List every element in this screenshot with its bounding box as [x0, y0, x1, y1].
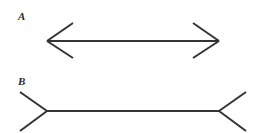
- muller-lyer-figure: A B: [0, 0, 259, 133]
- panel-a-fin-right-lower: [193, 41, 219, 58]
- panel-a-fin-left-lower: [47, 41, 73, 58]
- panel-b-fin-right-lower: [219, 111, 246, 131]
- panel-a: A: [17, 10, 219, 58]
- panel-b-fin-left-upper: [20, 92, 47, 111]
- figure-canvas: A B: [0, 0, 259, 133]
- panel-b-label: B: [17, 75, 25, 87]
- panel-a-fin-right-upper: [193, 23, 219, 41]
- panel-a-fin-left-upper: [47, 23, 73, 41]
- panel-a-label: A: [17, 10, 25, 22]
- panel-b: B: [17, 75, 246, 131]
- panel-b-fin-left-lower: [20, 111, 47, 131]
- panel-b-fin-right-upper: [219, 92, 246, 111]
